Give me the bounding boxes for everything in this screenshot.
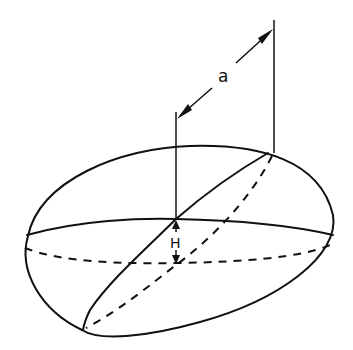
label-a: a <box>218 66 228 86</box>
ellipsoid-diagram: a H <box>0 0 353 350</box>
equator-front <box>27 219 333 235</box>
arrowhead-a-lower-icon <box>177 104 192 119</box>
label-h: H <box>170 235 181 251</box>
